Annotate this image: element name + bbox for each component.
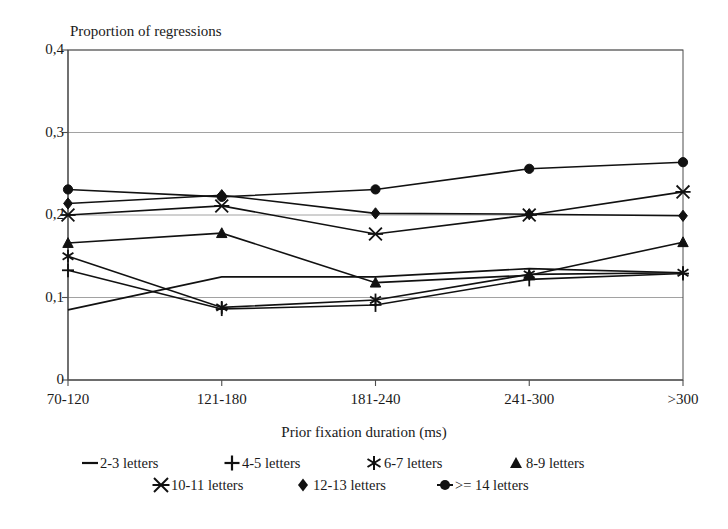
legend-item[interactable]: >= 14 letters — [435, 477, 577, 493]
legend-row-1: 2-3 letters4-5 letters6-7 letters8-9 let… — [80, 455, 648, 471]
legend-item[interactable]: 12-13 letters — [293, 477, 435, 493]
diamond-glyph — [298, 479, 308, 492]
circle-icon — [371, 185, 380, 194]
chart-figure: Proportion of regressions 0,4 0,3 0,2 0,… — [0, 0, 728, 529]
circle-marker-icon — [435, 477, 455, 493]
legend-item[interactable]: 10-11 letters — [151, 477, 293, 493]
y-tick-label-1: 0,3 — [28, 125, 64, 140]
dash-marker — [80, 455, 100, 471]
legend-item-label: 6-7 letters — [384, 455, 442, 471]
diamond-icon — [679, 210, 688, 221]
dash-marker-icon — [80, 455, 100, 471]
triangle-marker — [506, 455, 526, 471]
x-tick-label-1: 121-180 — [197, 392, 247, 407]
marker-x-star — [368, 228, 383, 241]
diamond-icon — [64, 198, 73, 209]
x-tick-label-4: >300 — [668, 392, 699, 407]
legend-item-label: 4-5 letters — [242, 455, 300, 471]
circle-marker — [435, 477, 455, 493]
legend-item[interactable]: 4-5 letters — [222, 455, 364, 471]
y-tick-label-0: 0,4 — [28, 42, 64, 57]
legend-item-label: 2-3 letters — [100, 455, 158, 471]
y-tick-label-3: 0,1 — [28, 290, 64, 305]
x-tick-label-0: 70-120 — [47, 392, 90, 407]
legend-item-label: 12-13 letters — [313, 477, 386, 493]
marker-diamond — [679, 210, 688, 221]
circle-icon — [525, 164, 534, 173]
marker-diamond — [371, 208, 380, 219]
diamond-marker — [293, 477, 313, 493]
marker-triangle — [678, 237, 688, 247]
legend-item[interactable]: 6-7 letters — [364, 455, 506, 471]
marker-circle — [678, 158, 687, 167]
marker-diamond — [64, 198, 73, 209]
legend-item-label: 10-11 letters — [171, 477, 243, 493]
legend-item-label: 8-9 letters — [526, 455, 584, 471]
legend-item[interactable]: 8-9 letters — [506, 455, 648, 471]
marker-circle — [371, 185, 380, 194]
x-star-marker-icon — [151, 477, 171, 493]
diamond-icon — [371, 208, 380, 219]
legend-item-label: >= 14 letters — [455, 477, 529, 493]
plus-marker-icon — [222, 455, 242, 471]
circle-icon — [678, 158, 687, 167]
asterisk-marker — [364, 455, 384, 471]
x-star-marker — [151, 477, 171, 493]
series-4-5-letters — [62, 263, 689, 316]
triangle-glyph — [510, 457, 522, 468]
legend-row-2: 10-11 letters12-13 letters>= 14 letters — [151, 477, 577, 493]
marker-asterisk — [63, 250, 74, 263]
plot-canvas — [0, 0, 728, 529]
series--14-letters — [63, 158, 687, 202]
data-series-group — [60, 158, 690, 316]
circle-icon — [217, 192, 226, 201]
y-tick-label-2: 0,2 — [28, 207, 64, 222]
plus-marker — [222, 455, 242, 471]
diamond-marker-icon — [293, 477, 313, 493]
marker-circle — [525, 164, 534, 173]
chart-legend: 2-3 letters4-5 letters6-7 letters8-9 let… — [0, 455, 728, 493]
page-title: Proportion of regressions — [70, 22, 222, 40]
legend-item[interactable]: 2-3 letters — [80, 455, 222, 471]
x-tick-label-2: 181-240 — [351, 392, 401, 407]
marker-circle — [217, 192, 226, 201]
series-8-9-letters — [63, 228, 688, 287]
asterisk-marker-icon — [364, 455, 384, 471]
series-line — [68, 233, 683, 283]
triangle-icon — [678, 237, 688, 247]
y-axis-tick-labels: 0,4 0,3 0,2 0,1 0 — [20, 0, 64, 400]
triangle-marker-icon — [506, 455, 526, 471]
circle-glyph — [440, 480, 450, 490]
circle-icon — [63, 185, 72, 194]
x-tick-label-3: 241-300 — [504, 392, 554, 407]
marker-circle — [63, 185, 72, 194]
x-axis-title: Prior fixation duration (ms) — [0, 424, 728, 441]
y-tick-label-4: 0 — [28, 372, 64, 387]
